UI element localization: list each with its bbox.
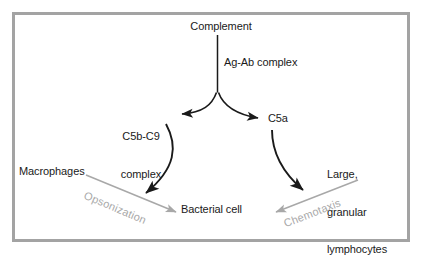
node-label-c5b-c9-complex-line1: C5b-C9 bbox=[109, 130, 173, 143]
node-label-c5b-c9-complex: C5b-C9 complex bbox=[109, 105, 173, 205]
node-label-c5a: C5a bbox=[268, 112, 308, 125]
figure-root: Complement Ag-Ab complex C5b-C9 complex … bbox=[0, 0, 422, 256]
node-label-complement: Complement bbox=[176, 20, 266, 33]
node-label-large-granular-lymphocytes-line3: lymphocytes bbox=[327, 243, 409, 256]
node-label-bacterial-cell: Bacterial cell bbox=[181, 203, 267, 216]
node-label-large-granular-lymphocytes-line1: Large, bbox=[327, 168, 409, 181]
edge-c5a-to-bacterial-cell bbox=[272, 130, 303, 190]
node-label-c5b-c9-complex-line2: complex bbox=[109, 168, 173, 181]
node-label-macrophages: Macrophages bbox=[19, 165, 105, 178]
edge-fork-to-c5b-c9 bbox=[182, 93, 217, 115]
edge-fork-to-c5a bbox=[219, 93, 259, 119]
node-label-ag-ab-complex: Ag-Ab complex bbox=[224, 56, 334, 69]
